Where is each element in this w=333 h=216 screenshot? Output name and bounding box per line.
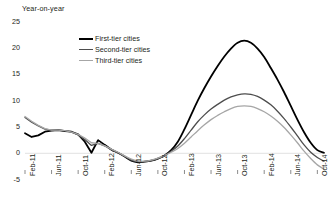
- y-axis-tick-label: 10: [6, 97, 20, 105]
- x-axis-tick-label: Jun-14: [294, 154, 302, 176]
- x-axis-tick-label: Oct-14: [321, 154, 329, 176]
- chart-series-group: [25, 41, 324, 169]
- x-axis-tick-label: Jun-12: [135, 154, 143, 176]
- legend-label-first-tier: First-tier cities: [95, 34, 140, 43]
- x-axis-tick-label: Feb-12: [108, 153, 116, 176]
- x-axis-tick-label: Oct-12: [161, 154, 169, 176]
- legend-swatch-first-tier: [79, 38, 93, 40]
- x-axis-tick-label: Oct-11: [82, 155, 90, 176]
- y-axis-tick-label: 15: [6, 70, 20, 78]
- y-axis-tick-label: 20: [6, 44, 20, 52]
- x-axis-tick-label: Jun-13: [215, 154, 223, 176]
- chart-container: Year-on-year 2520151050-5 Feb-11Jun-11Oc…: [0, 0, 333, 216]
- y-axis-tick-label: 25: [6, 18, 20, 26]
- series-line-3-head: [25, 116, 105, 145]
- legend-item-third-tier: Third-tier cities: [79, 55, 150, 66]
- chart-legend: First-tier cities Second-tier cities Thi…: [79, 33, 150, 66]
- legend-swatch-third-tier: [79, 60, 93, 61]
- series-line-1-head: [25, 130, 105, 153]
- y-axis-tick-label: 5: [6, 123, 20, 131]
- x-axis-tick-label: Jun-11: [55, 155, 63, 176]
- y-axis-tick-label: -5: [6, 176, 20, 184]
- legend-label-second-tier: Second-tier cities: [95, 45, 150, 54]
- x-axis-tick-label: Feb-14: [268, 153, 276, 176]
- x-axis-tick-label: Feb-11: [29, 154, 37, 176]
- legend-label-third-tier: Third-tier cities: [95, 56, 142, 65]
- x-axis-tick-label: Oct-13: [241, 154, 249, 176]
- series-line-2-tail: [105, 94, 324, 162]
- x-axis-tick-label: Feb-13: [188, 153, 196, 176]
- y-axis-tick-label: 0: [6, 149, 20, 157]
- legend-item-first-tier: First-tier cities: [79, 33, 150, 44]
- chart-plot-area: [0, 0, 333, 216]
- legend-item-second-tier: Second-tier cities: [79, 44, 150, 55]
- legend-swatch-second-tier: [79, 49, 93, 50]
